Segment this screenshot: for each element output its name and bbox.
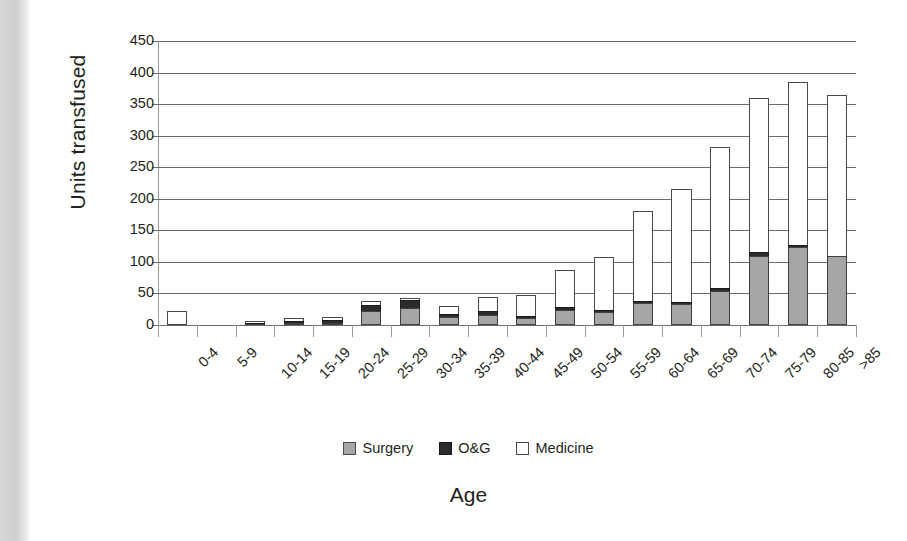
stacked-bar[interactable] (710, 147, 730, 325)
bar-slot (817, 41, 856, 325)
bar-segment-surgery (788, 247, 808, 325)
stacked-bar[interactable] (516, 295, 536, 325)
bar-segment-medicine (167, 311, 187, 326)
x-tick-label: >85 (855, 344, 884, 373)
bar-segment-surgery (516, 318, 536, 325)
legend-item-surgery[interactable]: Surgery (343, 440, 413, 456)
x-tick-label: 55-59 (626, 344, 664, 382)
x-tick-label: 25-29 (394, 344, 432, 382)
legend-item-medicine[interactable]: Medicine (516, 440, 593, 456)
bar-segment-medicine (671, 189, 691, 302)
stacked-bar[interactable] (671, 189, 691, 325)
y-tick-label-150: 150 (94, 221, 154, 237)
bar-slot (662, 41, 701, 325)
bar-segment-medicine (633, 211, 653, 301)
bar-slot (585, 41, 624, 325)
x-tick-label: 75-79 (782, 344, 820, 382)
bar-slot (546, 41, 585, 325)
page-left-margin-strip (0, 0, 30, 541)
y-tick-label-0: 0 (94, 316, 154, 332)
legend-label: O&G (458, 440, 490, 456)
bar-segment-surgery (555, 310, 575, 325)
bar-slot (197, 41, 236, 325)
x-tick-label: 50-54 (588, 344, 626, 382)
stacked-bar[interactable] (478, 297, 498, 325)
y-tick-label-250: 250 (94, 158, 154, 174)
x-tick-label: 45-49 (549, 344, 587, 382)
bar-segment-og (400, 300, 420, 308)
x-tick-label: 10-14 (277, 344, 315, 382)
stacked-bar[interactable] (633, 211, 653, 325)
bar-slot (158, 41, 197, 325)
y-tick-label-450: 450 (94, 32, 154, 48)
bar-segment-surgery (361, 311, 381, 325)
plot-area: 450400350300250200150100500 (158, 41, 856, 325)
bar-segment-surgery (749, 256, 769, 325)
chart-figure: Units transfused 45040035030025020015010… (30, 0, 907, 541)
bar-segment-medicine (555, 270, 575, 307)
stacked-bar[interactable] (361, 301, 381, 325)
bar-segment-medicine (594, 257, 614, 309)
bar-segment-medicine (827, 95, 847, 256)
stacked-bar[interactable] (788, 82, 808, 325)
bar-segment-surgery (594, 312, 614, 325)
bar-slot (236, 41, 275, 325)
bar-slot (429, 41, 468, 325)
x-tick-mark (856, 325, 857, 337)
bar-slot (701, 41, 740, 325)
x-axis-line (158, 325, 856, 326)
stacked-bar[interactable] (827, 95, 847, 325)
bar-slot (623, 41, 662, 325)
stacked-bar[interactable] (322, 317, 342, 325)
bar-slot (391, 41, 430, 325)
x-tick-label: 60-64 (665, 344, 703, 382)
x-tick-label: 20-24 (355, 344, 393, 382)
bar-segment-surgery (400, 308, 420, 325)
bar-segment-medicine (478, 297, 498, 311)
bar-segment-medicine (710, 147, 730, 288)
y-tick-label-350: 350 (94, 95, 154, 111)
bar-slot (468, 41, 507, 325)
y-tick-label-400: 400 (94, 64, 154, 80)
stacked-bar[interactable] (594, 257, 614, 325)
stacked-bar[interactable] (555, 270, 575, 325)
stacked-bar[interactable] (400, 298, 420, 325)
x-tick-label: 5-9 (234, 344, 260, 370)
bar-segment-surgery (478, 315, 498, 325)
legend-label: Surgery (362, 440, 413, 456)
stacked-bar[interactable] (749, 98, 769, 325)
bar-segment-surgery (827, 256, 847, 325)
square-gray-icon (343, 442, 356, 455)
x-tick-label: 30-34 (433, 344, 471, 382)
bar-slot (274, 41, 313, 325)
bar-segment-surgery (671, 304, 691, 325)
bar-segment-medicine (516, 295, 536, 316)
x-tick-label: 70-74 (743, 344, 781, 382)
square-black-icon (439, 442, 452, 455)
bar-slot (352, 41, 391, 325)
stacked-bar[interactable] (167, 311, 187, 326)
x-tick-label: 65-69 (704, 344, 742, 382)
x-tick-label: 15-19 (316, 344, 354, 382)
x-axis-tick-labels: 0-45-910-1415-1920-2425-2930-3435-3940-4… (158, 330, 856, 400)
y-tick-label-200: 200 (94, 190, 154, 206)
legend-item-og[interactable]: O&G (439, 440, 490, 456)
y-tick-label-100: 100 (94, 253, 154, 269)
bar-segment-surgery (439, 317, 459, 325)
bar-segment-surgery (633, 303, 653, 325)
bar-slot (740, 41, 779, 325)
square-white-icon (516, 442, 529, 455)
y-tick-label-300: 300 (94, 127, 154, 143)
x-tick-label: 35-39 (471, 344, 509, 382)
x-tick-label: 80-85 (820, 344, 858, 382)
y-tick-label-50: 50 (94, 284, 154, 300)
bar-slot (313, 41, 352, 325)
stacked-bar[interactable] (439, 306, 459, 325)
bar-slot (778, 41, 817, 325)
bar-segment-medicine (439, 306, 459, 314)
bar-series-group (158, 41, 856, 325)
legend-label: Medicine (535, 440, 593, 456)
bar-segment-medicine (749, 98, 769, 252)
bar-slot (507, 41, 546, 325)
chart-legend: SurgeryO&GMedicine (30, 440, 907, 456)
